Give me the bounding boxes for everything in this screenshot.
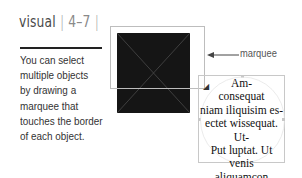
marquee-selection [110, 26, 205, 89]
caption-line: of each object. [20, 129, 108, 144]
marquee-callout-label: marquee [240, 47, 277, 59]
separator: | [60, 13, 64, 31]
section-header: visual | 4–7 | [19, 13, 99, 31]
frame-line: niam iliquisim es- [198, 104, 285, 117]
divider-rule [20, 47, 102, 49]
caption-line: multiple objects [20, 68, 108, 83]
caption-line: by drawing a [20, 83, 108, 98]
caption-text: You can select multiple objects by drawi… [20, 53, 108, 144]
caption-line: marquee that [20, 99, 108, 114]
frame-body-text: Am- consequat niam iliquisim es- ectet w… [198, 77, 285, 178]
pointer-cursor-icon: ◢ [203, 82, 209, 91]
section-title: visual [19, 13, 56, 31]
frame-line: aliquamcon [198, 171, 285, 178]
page-range: 4–7 [68, 13, 90, 31]
frame-line: Am- [198, 77, 285, 90]
frame-line: ectet wissequat. Ut- [198, 117, 285, 144]
caption-line: You can select [20, 53, 108, 68]
caption-line: touches the border [20, 114, 108, 129]
arrow-left-icon [207, 51, 239, 59]
separator: | [95, 13, 99, 31]
frame-line: consequat [198, 90, 285, 103]
frame-line: Put luptat. Ut venis [198, 144, 285, 171]
